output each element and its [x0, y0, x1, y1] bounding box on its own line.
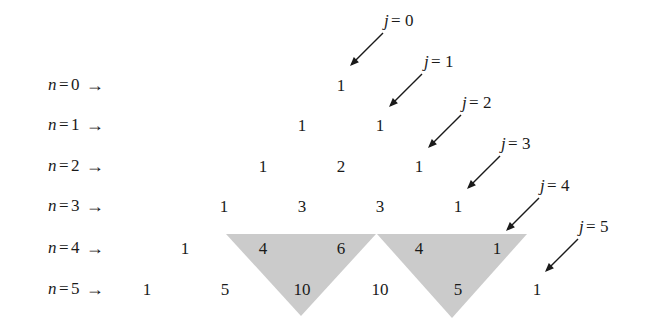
coefficient-n5-j5: 1 [533, 281, 542, 298]
row-label-equals: = [57, 156, 71, 175]
row-label-value: 3 [71, 196, 80, 215]
right-arrow-icon: → [86, 157, 104, 175]
coefficient-n4-j0: 1 [181, 240, 190, 257]
column-label-value: 3 [520, 134, 533, 153]
column-label-equals: = [467, 93, 481, 112]
row-label-value: 2 [71, 156, 80, 175]
row-label-variable: n [48, 279, 57, 298]
column-label-j-4: j=4 [540, 177, 572, 194]
row-label-n-5: n=5→ [48, 280, 104, 298]
coefficient-n5-j1: 5 [221, 281, 230, 298]
right-arrow-icon: → [86, 239, 104, 257]
coefficient-n5-j0: 1 [143, 281, 152, 298]
row-label-variable: n [48, 156, 57, 175]
row-label-value: 1 [71, 115, 80, 134]
right-arrow-icon: → [86, 197, 104, 215]
column-label-j-5: j=5 [579, 218, 611, 235]
pascal-triangle-figure: n=0→n=1→n=2→n=3→n=4→n=5→ 111121133114641… [0, 0, 653, 324]
right-arrow-icon: → [86, 76, 104, 94]
right-arrow-icon: → [86, 116, 104, 134]
coefficient-n3-j0: 1 [220, 198, 229, 215]
row-label-equals: = [57, 75, 71, 94]
row-label-variable: n [48, 196, 57, 215]
row-label-variable: n [48, 238, 57, 257]
coefficient-n3-j2: 3 [376, 198, 385, 215]
column-label-equals: = [584, 217, 598, 236]
row-label-variable: n [48, 75, 57, 94]
right-arrow-icon: → [86, 280, 104, 298]
row-label-value: 4 [71, 238, 80, 257]
coefficient-n5-j2: 10 [294, 281, 311, 298]
coefficient-n2-j1: 2 [337, 158, 346, 175]
coefficient-n1-j0: 1 [298, 117, 307, 134]
coefficient-n5-j3: 10 [372, 281, 389, 298]
column-label-value: 5 [598, 217, 611, 236]
coefficient-n0-j0: 1 [337, 77, 346, 94]
column-label-equals: = [429, 52, 443, 71]
row-label-value: 5 [71, 279, 80, 298]
coefficient-n2-j0: 1 [259, 158, 268, 175]
row-label-equals: = [57, 279, 71, 298]
column-label-value: 1 [443, 52, 456, 71]
row-label-n-4: n=4→ [48, 239, 104, 257]
row-label-equals: = [57, 196, 71, 215]
coefficient-n2-j2: 1 [415, 158, 424, 175]
left-shaded-triangle [226, 234, 376, 316]
row-label-equals: = [57, 115, 71, 134]
coefficient-n3-j1: 3 [298, 198, 307, 215]
coefficient-n4-j2: 6 [337, 240, 346, 257]
row-label-n-3: n=3→ [48, 197, 104, 215]
column-label-j-3: j=3 [501, 135, 533, 152]
column-label-j-2: j=2 [462, 94, 494, 111]
coefficient-n4-j1: 4 [259, 240, 268, 257]
column-label-value: 4 [559, 176, 572, 195]
column-label-j-0: j=0 [384, 12, 416, 29]
column-label-equals: = [506, 134, 520, 153]
row-label-value: 0 [71, 75, 80, 94]
column-label-value: 0 [403, 11, 416, 30]
column-label-equals: = [545, 176, 559, 195]
right-shaded-triangle [377, 234, 527, 318]
coefficient-n1-j1: 1 [376, 117, 385, 134]
coefficient-n4-j4: 1 [493, 240, 502, 257]
coefficient-n4-j3: 4 [415, 240, 424, 257]
row-label-equals: = [57, 238, 71, 257]
row-label-n-1: n=1→ [48, 116, 104, 134]
row-label-n-0: n=0→ [48, 76, 104, 94]
column-label-equals: = [389, 11, 403, 30]
column-label-j-1: j=1 [424, 53, 456, 70]
row-label-n-2: n=2→ [48, 157, 104, 175]
column-label-value: 2 [481, 93, 494, 112]
coefficient-n5-j4: 5 [454, 281, 463, 298]
coefficient-n3-j3: 1 [454, 198, 463, 215]
row-label-variable: n [48, 115, 57, 134]
